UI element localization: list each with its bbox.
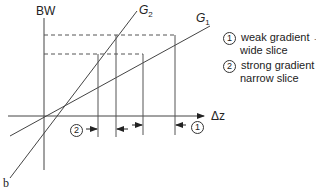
- g1-label: G1: [196, 12, 210, 29]
- legend-item-strong: 2strong gradient →: [223, 59, 316, 73]
- legend-item-weak-result: wide slice: [240, 44, 288, 56]
- g2-label: G2: [139, 4, 153, 21]
- g1-line: [10, 26, 210, 136]
- narrow-slice-marker: 2: [70, 123, 88, 137]
- bw-axis-label: BW: [36, 5, 55, 17]
- wide-slice-marker: 1: [191, 120, 209, 134]
- g2-line: [10, 11, 137, 178]
- bw-vs-slice-diagram: [0, 0, 316, 193]
- marker-2-icon: 2: [223, 60, 236, 73]
- panel-label: b: [3, 176, 9, 191]
- legend-item-strong-result: narrow slice: [240, 72, 299, 84]
- dz-axis-label: Δz: [211, 110, 225, 122]
- marker-1-icon: 1: [223, 32, 236, 45]
- legend-item-weak: 1weak gradient →: [223, 31, 316, 45]
